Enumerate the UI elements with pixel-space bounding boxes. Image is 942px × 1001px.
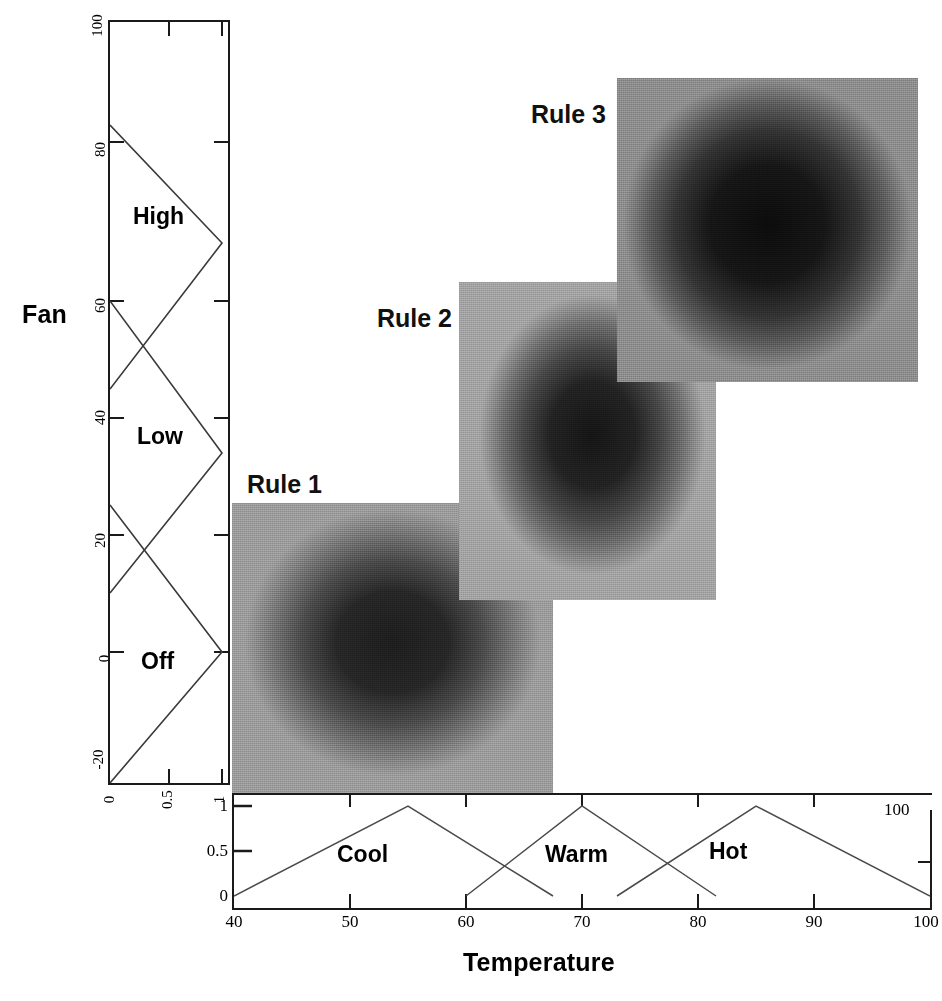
temp-tick-90: 90 [794, 912, 834, 932]
temp-mf-tick-0: 0 [204, 886, 228, 906]
fan-term-high: High [133, 203, 184, 230]
temp-term-cool: Cool [337, 841, 388, 868]
fan-mf-tick-0: 0 [93, 790, 127, 808]
fan-tick-60: 60 [78, 296, 108, 312]
fan-tick-neg20: -20 [78, 750, 108, 766]
temperature-axis-title: Temperature [463, 948, 615, 977]
temp-tick-50: 50 [330, 912, 370, 932]
fan-tick-0: 0 [78, 649, 108, 665]
temp-term-hot: Hot [709, 838, 747, 865]
figure-canvas: Fan 100 80 60 40 20 0 -20 [0, 0, 942, 1001]
rule-2-label: Rule 2 [374, 304, 455, 333]
temp-term-warm: Warm [545, 841, 608, 868]
fan-tick-80: 80 [78, 140, 108, 156]
temp-tick-60: 60 [446, 912, 486, 932]
temp-right-axis-label: 100 [884, 800, 910, 820]
fan-mf-tick-05: 0.5 [150, 790, 184, 808]
temp-tick-70: 70 [562, 912, 602, 932]
fan-tick-100: 100 [78, 16, 108, 32]
temp-tick-40: 40 [214, 912, 254, 932]
temp-mf-tick-05: 0.5 [194, 841, 228, 861]
fan-term-low: Low [137, 423, 183, 450]
rule-3-surface-patch [617, 78, 918, 382]
temp-right-axis-tick [918, 861, 932, 863]
rule-1-label: Rule 1 [244, 470, 325, 499]
fan-tick-20: 20 [78, 531, 108, 547]
temp-mf-tick-1: 1 [204, 796, 228, 816]
fan-term-off: Off [141, 648, 174, 675]
temp-right-axis-line [930, 810, 932, 910]
temp-tick-80: 80 [678, 912, 718, 932]
rule-3-label: Rule 3 [528, 100, 609, 129]
rule-3-texture [617, 78, 918, 382]
fan-tick-40: 40 [78, 408, 108, 424]
fan-axis-title: Fan [22, 300, 67, 329]
temp-tick-100: 100 [906, 912, 942, 932]
